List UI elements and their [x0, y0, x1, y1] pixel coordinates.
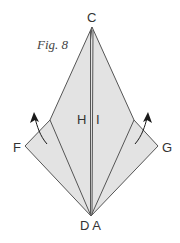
label-c: C [87, 10, 96, 25]
label-i: I [96, 112, 100, 127]
kite-body [25, 27, 158, 216]
right-arrowhead-icon [143, 112, 152, 123]
label-f: F [13, 140, 21, 155]
label-da: D A [80, 218, 101, 233]
figure-caption: Fig. 8 [36, 37, 69, 52]
label-h: H [77, 112, 86, 127]
origami-diagram: Fig. 8 C H I F G D A [0, 0, 180, 243]
label-g: G [162, 140, 172, 155]
left-arrowhead-icon [30, 112, 39, 123]
diagram-svg: Fig. 8 C H I F G D A [0, 0, 180, 243]
